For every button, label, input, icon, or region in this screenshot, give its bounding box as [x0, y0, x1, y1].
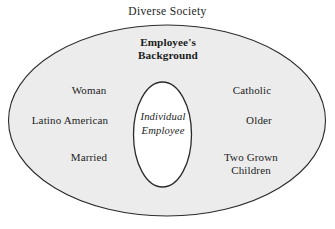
- attribute-label-catholic: Catholic: [196, 84, 308, 96]
- attribute-label-woman: Woman: [34, 84, 144, 96]
- region-heading-employees-background: Employee's Background: [105, 36, 231, 61]
- attribute-label-older: Older: [203, 114, 315, 126]
- diagram-title: Diverse Society: [0, 5, 335, 18]
- region-label-individual-employee: Individual Employee: [131, 110, 195, 137]
- diagram-canvas: Diverse Society Employee's Background In…: [0, 0, 335, 229]
- attribute-label-two-grown-children: Two Grown Children: [192, 151, 310, 176]
- attribute-label-married: Married: [34, 151, 144, 163]
- attribute-label-latino-american: Latino American: [8, 114, 132, 126]
